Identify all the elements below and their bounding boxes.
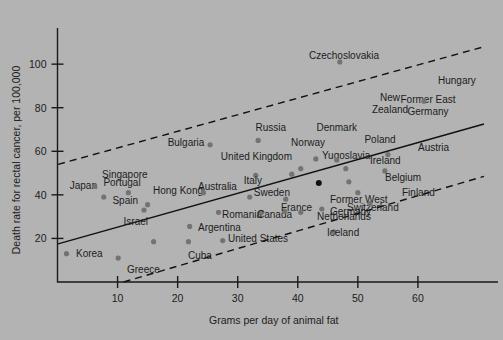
plot-canvas: 20406080100102030405060Grams per day of …	[0, 0, 503, 340]
data-point-label: Zealand	[372, 104, 408, 115]
data-point-label: Russia	[255, 122, 286, 133]
data-point	[289, 172, 294, 177]
data-point	[298, 210, 303, 215]
y-tick-label: 20	[35, 232, 47, 244]
data-point	[145, 202, 150, 207]
data-point	[220, 238, 225, 243]
data-point	[319, 206, 324, 211]
data-point-label: Former East	[400, 94, 455, 105]
data-point	[385, 152, 390, 157]
data-point-label: France	[281, 202, 313, 213]
data-point	[141, 208, 146, 213]
data-point-label: Israel	[124, 216, 148, 227]
data-point-label: Hungary	[438, 75, 476, 86]
data-point-label: Sweden	[254, 187, 290, 198]
data-point	[256, 138, 261, 143]
data-point-label: Argentina	[198, 222, 241, 233]
data-point-label: Switzerland	[347, 202, 399, 213]
data-point	[367, 201, 372, 206]
x-tick-label: 60	[412, 292, 424, 304]
data-point-label: Norway	[291, 137, 325, 148]
data-point-label: Ireland	[370, 155, 401, 166]
x-tick-label: 20	[172, 292, 184, 304]
y-tick-label: 40	[35, 189, 47, 201]
data-point-label: Portugal	[103, 177, 140, 188]
data-point-label: Spain	[112, 195, 138, 206]
x-tick-label: 40	[292, 292, 304, 304]
data-point-label: Italy	[244, 175, 262, 186]
data-point-label: Greece	[127, 264, 160, 275]
data-point-label: Belgium	[385, 172, 421, 183]
data-point-label: Australia	[198, 181, 237, 192]
data-point	[316, 180, 322, 186]
y-axis-title: Death rate for rectal cancer, per 100,00…	[10, 66, 22, 255]
data-point	[247, 194, 252, 199]
data-point-label: Bulgaria	[168, 137, 205, 148]
data-point	[313, 156, 318, 161]
data-point-label: Denmark	[316, 122, 358, 133]
data-point	[186, 239, 191, 244]
data-point	[343, 166, 348, 171]
data-point	[298, 166, 303, 171]
data-point-label: Cuba	[188, 250, 212, 261]
y-tick-label: 80	[35, 102, 47, 114]
data-point-label: Korea	[76, 248, 103, 259]
data-point	[355, 190, 360, 195]
x-tick-label: 10	[112, 292, 124, 304]
data-point-label: Hong Kong	[153, 185, 203, 196]
x-tick-label: 50	[352, 292, 364, 304]
data-point-label: Austria	[418, 142, 450, 153]
data-point	[334, 157, 339, 162]
data-point	[151, 239, 156, 244]
data-point-label: Iceland	[327, 227, 359, 238]
data-point-label: New	[380, 92, 401, 103]
data-point-label: Poland	[364, 134, 395, 145]
data-point	[116, 255, 121, 260]
data-point-label: Yugoslavia	[322, 150, 371, 161]
data-point	[101, 194, 106, 199]
data-point	[216, 210, 221, 215]
data-point-label: Czechoslovakia	[309, 50, 379, 61]
data-point-label: Finland	[402, 187, 435, 198]
data-point	[187, 224, 192, 229]
scatter-plot: 20406080100102030405060Grams per day of …	[0, 0, 503, 340]
data-point-label: United States	[228, 233, 288, 244]
data-point	[382, 168, 387, 173]
data-point	[346, 179, 351, 184]
data-point	[207, 142, 212, 147]
data-point	[421, 99, 426, 104]
data-point	[64, 251, 69, 256]
data-point-label: United Kingdom	[221, 151, 292, 162]
data-point-label: Germany	[407, 106, 448, 117]
data-point	[92, 184, 97, 189]
y-tick-label: 60	[35, 145, 47, 157]
x-axis-title: Grams per day of animal fat	[209, 314, 339, 326]
x-tick-label: 30	[232, 292, 244, 304]
y-tick-label: 100	[29, 58, 47, 70]
